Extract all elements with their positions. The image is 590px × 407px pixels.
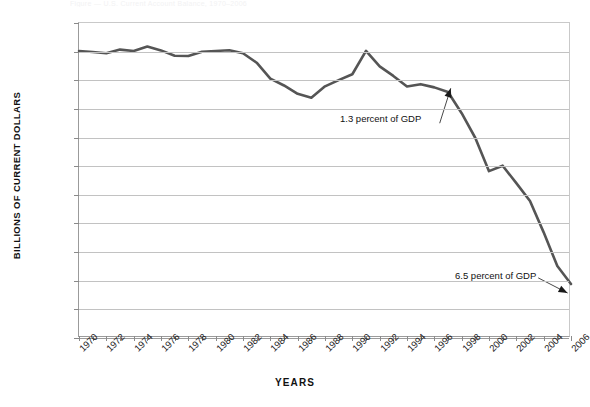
annotation-arrows [440, 88, 568, 293]
x-tick-mark [407, 336, 408, 341]
gridline [79, 166, 569, 167]
x-tick-mark [298, 336, 299, 341]
x-tick-mark [243, 336, 244, 341]
annotation-label-2: 6.5 percent of GDP [455, 270, 536, 281]
x-tick-mark [571, 336, 572, 341]
y-tick-mark [74, 309, 79, 310]
gridline [79, 195, 569, 196]
x-tick-mark [489, 336, 490, 341]
gridline [79, 80, 569, 81]
x-tick-mark [325, 336, 326, 341]
x-tick-mark [380, 336, 381, 341]
y-tick-mark [74, 52, 79, 53]
y-tick-mark [74, 166, 79, 167]
x-axis-title: YEARS [0, 377, 590, 388]
x-tick-mark [106, 336, 107, 341]
data-line-layer [79, 23, 571, 338]
x-tick-mark [134, 336, 135, 341]
chart-figure: Figure — U.S. Current Account Balance, 1… [0, 0, 590, 407]
x-tick-mark [516, 336, 517, 341]
gridline [79, 109, 569, 110]
y-tick-mark [74, 223, 79, 224]
x-tick-mark [216, 336, 217, 341]
x-tick-mark [352, 336, 353, 341]
x-tick-mark [544, 336, 545, 341]
annotation-arrow-head [558, 286, 568, 293]
y-tick-mark [74, 252, 79, 253]
x-tick-mark [79, 336, 80, 341]
gridline [79, 252, 569, 253]
annotation-arrow-head [445, 88, 452, 98]
x-tick-mark [462, 336, 463, 341]
x-tick-mark [434, 336, 435, 341]
x-tick-label: 2006 [569, 331, 590, 354]
gridline [79, 223, 569, 224]
plot-area: 100,0000–100,000–200,000–300,000–400,000… [78, 22, 570, 337]
cropped-title-text: Figure — U.S. Current Account Balance, 1… [70, 0, 540, 7]
x-tick-mark [270, 336, 271, 341]
y-tick-mark [74, 281, 79, 282]
y-tick-mark [74, 109, 79, 110]
gridline [79, 52, 569, 53]
y-tick-mark [74, 80, 79, 81]
y-tick-mark [74, 195, 79, 196]
y-axis-title: BILLIONS OF CURRENT DOLLARS [11, 56, 22, 296]
gridline [79, 138, 569, 139]
x-tick-mark [188, 336, 189, 341]
y-tick-mark [74, 138, 79, 139]
annotation-label-1: 1.3 percent of GDP [340, 113, 421, 124]
y-tick-mark [74, 23, 79, 24]
gridline [79, 309, 569, 310]
x-tick-mark [161, 336, 162, 341]
